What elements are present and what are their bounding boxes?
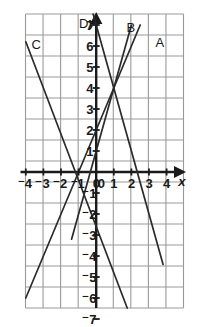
line-label-a: A xyxy=(156,36,165,49)
x-tick-label: ⁻3 xyxy=(35,177,49,190)
y-tick-label: ⁻6 xyxy=(82,292,96,305)
x-tick-label: 1 xyxy=(110,177,117,190)
origin-label: 0 xyxy=(98,177,105,190)
y-tick-label: 3 xyxy=(86,103,93,116)
y-tick-label: 6 xyxy=(86,40,93,53)
y-tick-label: ⁻1 xyxy=(82,187,96,200)
line-label-b: B xyxy=(127,21,136,34)
y-tick-label: ⁻2 xyxy=(82,208,96,221)
y-tick-label: 2 xyxy=(86,124,93,137)
y-tick-label: 5 xyxy=(86,61,93,74)
line-label-c: C xyxy=(31,38,40,51)
plotted-line-d xyxy=(93,14,163,264)
y-tick-label: ⁻3 xyxy=(82,229,96,242)
y-tick-label: ⁻5 xyxy=(82,271,96,284)
y-tick-label: 1 xyxy=(86,145,93,158)
x-tick-label: ⁻2 xyxy=(53,177,67,190)
x-tick-label: 2 xyxy=(128,177,135,190)
x-axis-name: x xyxy=(178,175,185,188)
y-tick-label: 7 xyxy=(86,19,93,32)
y-tick-label: 4 xyxy=(86,82,93,95)
y-tick-label: ⁻7 xyxy=(82,313,96,326)
grid-lines xyxy=(26,14,184,308)
plotted-line-b xyxy=(72,25,132,239)
y-tick-label: ⁻4 xyxy=(82,250,96,263)
x-tick-label: ⁻4 xyxy=(18,177,32,190)
x-tick-label: 4 xyxy=(163,177,170,190)
x-tick-label: 3 xyxy=(146,177,153,190)
